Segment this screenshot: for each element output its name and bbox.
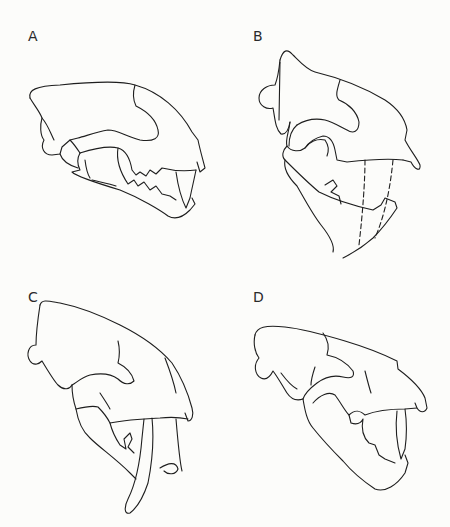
panel-a: A [0,0,225,263]
skull-drawing-c [0,263,225,526]
panel-d: D [225,263,450,526]
panel-c: C [0,263,225,526]
skull-drawing-a [0,0,225,263]
skull-drawing-b [225,0,450,263]
panel-b: B [225,0,450,263]
skull-drawing-d [225,263,450,526]
